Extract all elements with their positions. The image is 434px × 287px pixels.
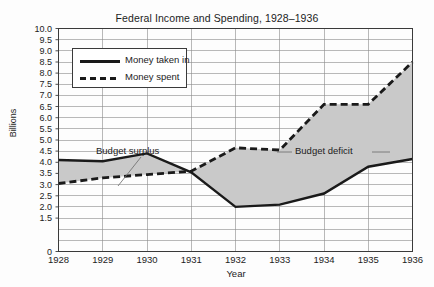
- x-axis-label: Year: [58, 268, 414, 279]
- y-tick-label: 7.5: [18, 79, 52, 89]
- chart-figure: Federal Income and Spending, 1928–1936 B…: [0, 0, 434, 287]
- x-tick-label: 1931: [167, 254, 215, 265]
- y-tick-label: 7.0: [18, 90, 52, 100]
- y-tick-label: 10.0: [18, 24, 52, 34]
- y-tick-label: 2.5: [18, 191, 52, 201]
- y-tick-label: 1.5: [18, 213, 52, 223]
- chart-legend: Money taken in Money spent: [72, 48, 187, 88]
- legend-item-money-taken-in: Money taken in: [73, 52, 188, 70]
- annotation-budget-surplus: Budget surplus: [96, 145, 159, 156]
- x-tick-label: 1933: [256, 254, 304, 265]
- x-tick-label: 1930: [123, 254, 171, 265]
- legend-swatch-dashed-line-icon: [80, 77, 120, 80]
- y-tick-label: 5.0: [18, 135, 52, 145]
- x-tick-label: 1934: [300, 254, 348, 265]
- y-tick-label: 3.5: [18, 168, 52, 178]
- x-tick-label: 1929: [79, 254, 127, 265]
- legend-swatch-solid-line-icon: [80, 60, 120, 63]
- y-tick-label: 6.5: [18, 102, 52, 112]
- x-tick-label: 1936: [389, 254, 434, 265]
- y-tick-label: 6.0: [18, 113, 52, 123]
- x-tick-label: 1928: [35, 254, 83, 265]
- y-tick-label: 5.5: [18, 124, 52, 134]
- plot-area: [0, 0, 434, 287]
- legend-item-money-spent: Money spent: [73, 69, 188, 87]
- y-tick-label: 8.5: [18, 57, 52, 67]
- y-tick-label: 8.0: [18, 68, 52, 78]
- legend-label-money-taken-in: Money taken in: [125, 54, 189, 65]
- y-tick-label: 4.5: [18, 146, 52, 156]
- y-tick-label: 3.0: [18, 180, 52, 190]
- legend-label-money-spent: Money spent: [125, 71, 179, 82]
- x-tick-label: 1935: [344, 254, 392, 265]
- annotation-budget-deficit: Budget deficit: [295, 145, 353, 156]
- y-tick-label: 9.5: [18, 35, 52, 45]
- y-tick-label: 2.0: [18, 202, 52, 212]
- y-tick-label: 4.0: [18, 157, 52, 167]
- y-tick-label: 9.0: [18, 46, 52, 56]
- x-tick-label: 1932: [212, 254, 260, 265]
